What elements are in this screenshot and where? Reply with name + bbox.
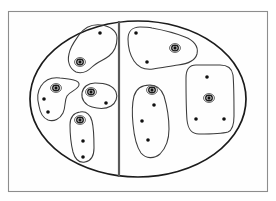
point-dot [205, 75, 209, 79]
point-dot [134, 31, 138, 35]
point-dot [78, 118, 81, 121]
venn-partition-diagram [0, 0, 276, 201]
point-dot [194, 117, 198, 121]
point-pt-r11 [222, 117, 226, 121]
ringed-point-pt-l3 [51, 84, 62, 93]
point-dot [146, 138, 150, 142]
point-dot [222, 117, 226, 121]
point-dot [104, 101, 108, 105]
point-pt-l1 [98, 31, 102, 35]
point-dot [173, 46, 176, 49]
point-dot [207, 96, 210, 99]
ringed-point-pt-r9 [204, 94, 215, 103]
point-dot [98, 31, 102, 35]
point-dot [42, 97, 46, 101]
point-dot [150, 88, 153, 91]
point-dot [81, 155, 85, 159]
ringed-point-pt-r4 [147, 86, 158, 95]
point-dot [54, 86, 57, 89]
point-dot [152, 103, 156, 107]
point-pt-r7 [146, 138, 150, 142]
point-pt-r6 [140, 119, 144, 123]
point-pt-r3 [145, 60, 149, 64]
ringed-point-pt-r2 [170, 44, 181, 53]
point-dot [78, 60, 81, 63]
ringed-point-pt-l6 [86, 88, 97, 97]
point-dot [145, 60, 149, 64]
point-pt-l10 [81, 155, 85, 159]
point-pt-r8 [205, 75, 209, 79]
point-pt-l4 [42, 97, 46, 101]
point-pt-r10 [194, 117, 198, 121]
ringed-point-pt-l2 [75, 58, 86, 67]
point-dot [46, 110, 50, 114]
point-pt-r1 [134, 31, 138, 35]
ringed-point-pt-l8 [75, 116, 86, 125]
outer-frame [9, 12, 268, 192]
point-pt-r5 [152, 103, 156, 107]
point-dot [140, 119, 144, 123]
diagram-canvas [0, 0, 276, 201]
point-pt-l7 [104, 101, 108, 105]
point-pt-l9 [81, 139, 85, 143]
point-dot [81, 139, 85, 143]
point-pt-l5 [46, 110, 50, 114]
point-dot [89, 90, 92, 93]
